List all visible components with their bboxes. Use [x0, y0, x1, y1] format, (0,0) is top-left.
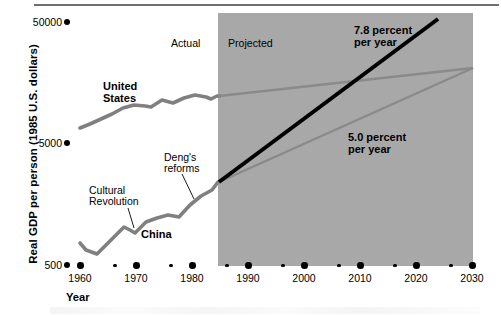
- x-tick-dot-1965: [113, 264, 117, 268]
- x-tick-dot-2015: [393, 264, 397, 268]
- x-tick-dot-2010: [357, 262, 364, 269]
- x-tick-dot-2025: [449, 264, 453, 268]
- x-tick-dot-1990: [245, 262, 252, 269]
- annotation-rate-50-line2: per year: [348, 143, 391, 156]
- x-tick-label-1960: 1960: [58, 272, 102, 284]
- cultural-revolution-leader-line: [128, 208, 134, 228]
- x-tick-dot-2000: [301, 262, 308, 269]
- x-axis-title: Year: [66, 291, 90, 303]
- series-label-united-states-line2: States: [103, 92, 136, 105]
- annotation-cultural-revolution-line2: Revolution: [89, 196, 139, 208]
- annotation-rate-78-line2: per year: [354, 36, 397, 49]
- chart-figure: Real GDP per person (1985 U.S. dollars) …: [0, 0, 501, 315]
- annotation-dengs-reforms-line2: reforms: [164, 163, 200, 175]
- annotation-rate-50-line1: 5.0 percent: [348, 131, 406, 144]
- region-label-projected: Projected: [228, 37, 273, 49]
- y-tick-label-50000: 50000: [2, 16, 62, 28]
- annotation-rate-78-line1: 7.8 percent: [354, 24, 412, 37]
- x-tick-label-1990: 1990: [226, 272, 270, 284]
- dengs-reforms-leader-line: [182, 174, 194, 199]
- x-tick-label-2010: 2010: [338, 272, 382, 284]
- x-tick-dot-1980: [189, 262, 196, 269]
- projected-region-shading: [218, 13, 473, 266]
- x-tick-label-2020: 2020: [394, 272, 438, 284]
- x-tick-dot-1975: [169, 264, 173, 268]
- series-label-china: China: [141, 228, 172, 241]
- y-tick-label-5000: 5000: [2, 137, 62, 149]
- x-tick-label-2000: 2000: [282, 272, 326, 284]
- caption-sliver: [50, 307, 480, 314]
- x-tick-label-1980: 1980: [170, 272, 214, 284]
- united-states-actual-line: [80, 95, 220, 128]
- x-tick-dot-1960: [77, 262, 84, 269]
- region-label-actual: Actual: [171, 37, 200, 49]
- x-tick-label-1970: 1970: [114, 272, 158, 284]
- y-tick-dot-5000: [64, 140, 70, 146]
- x-tick-dot-1985: [225, 264, 229, 268]
- x-tick-label-2030: 2030: [450, 272, 494, 284]
- x-tick-dot-2020: [413, 262, 420, 269]
- y-tick-dot-500: [64, 262, 70, 268]
- y-tick-dot-50000: [64, 19, 70, 25]
- x-tick-dot-2005: [337, 264, 341, 268]
- series-label-united-states-line1: United: [103, 80, 137, 93]
- x-tick-dot-1970: [133, 262, 140, 269]
- y-axis-title: Real GDP per person (1985 U.S. dollars): [27, 29, 39, 279]
- y-tick-label-500: 500: [2, 259, 62, 271]
- x-tick-dot-1995: [281, 264, 285, 268]
- x-tick-dot-2030: [469, 262, 476, 269]
